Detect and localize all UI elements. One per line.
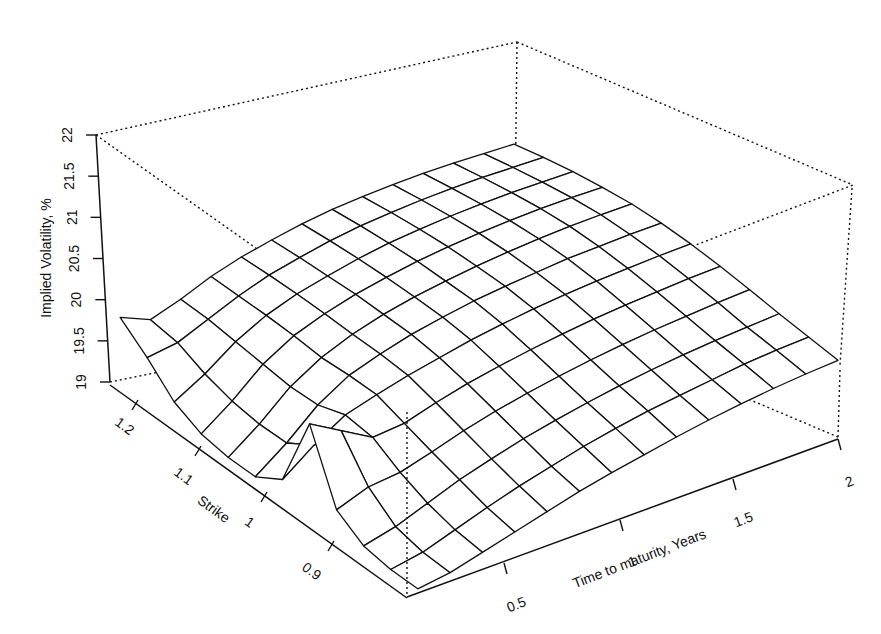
- strike-tick-label: 1: [242, 513, 258, 531]
- z-tick-label: 19.5: [71, 327, 87, 354]
- strike-tick-label: 0.9: [299, 559, 324, 584]
- time-tick: [733, 479, 736, 490]
- strike-axis-title: Strike: [195, 492, 234, 526]
- time-tick-label: 1.5: [731, 508, 755, 530]
- z-axis: 1919.52020.52121.522: [59, 127, 110, 390]
- z-tick-label: 22: [59, 127, 75, 143]
- z-tick-label: 20: [68, 292, 84, 308]
- z-tick-label: 21.5: [61, 162, 77, 189]
- box-edge: [517, 42, 853, 185]
- z-tick-label: 19: [73, 374, 89, 390]
- box-edge: [96, 42, 517, 135]
- strike-tick-label: 1.1: [171, 464, 196, 489]
- z-axis-title: Implied Volatility, %: [38, 198, 54, 318]
- time-tick-label: 2: [843, 472, 856, 490]
- time-tick: [620, 520, 623, 531]
- volatility-surface-plot: 1919.52020.52121.522 1.21.110.9 0.511.52…: [0, 0, 881, 634]
- time-tick-label: 0.5: [504, 593, 528, 615]
- time-tick: [504, 563, 507, 574]
- z-tick-label: 21: [64, 209, 80, 225]
- surface-mesh: [120, 144, 838, 589]
- z-tick-label: 20.5: [66, 245, 82, 272]
- box-edge-right: [838, 370, 840, 437]
- strike-tick-label: 1.2: [112, 414, 137, 439]
- box-edge-right: [840, 188, 852, 365]
- time-tick: [838, 439, 841, 450]
- time-axis-title: Time to maturity, Years: [570, 525, 708, 591]
